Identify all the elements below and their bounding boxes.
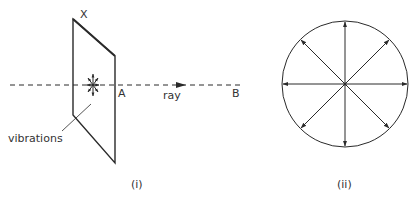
label-vibrations: vibrations <box>8 132 63 145</box>
label-ray: ray <box>163 89 181 102</box>
label-a: A <box>118 87 126 100</box>
vibrations-leader-line <box>62 104 91 131</box>
polarizer-plane <box>73 19 115 163</box>
label-b: B <box>232 87 240 100</box>
ray-arrow-icon <box>176 82 186 88</box>
center-point <box>344 83 347 86</box>
label-x: X <box>80 8 88 21</box>
figure-i: X A ray B vibrations (i) <box>8 8 242 191</box>
vibrations-star-icon <box>87 74 99 96</box>
figure-ii: (ii) <box>282 21 408 191</box>
caption-ii: (ii) <box>337 178 352 191</box>
diagram-canvas: X A ray B vibrations (i) (ii) <box>0 0 414 199</box>
caption-i: (i) <box>131 178 143 191</box>
